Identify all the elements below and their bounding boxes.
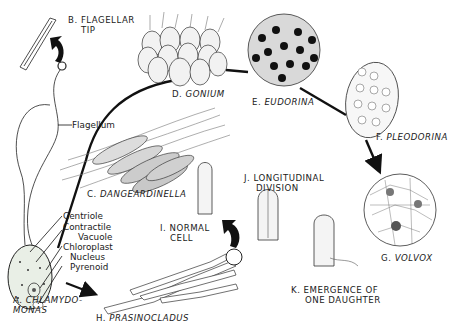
algae-evolution-figure: B. FLAGELLAR TIP C. DANGEARDINELLA D. GO… xyxy=(0,0,456,327)
gonium-drawing xyxy=(138,12,227,86)
arrow-d-to-e xyxy=(226,70,248,72)
arrow-flagellar-tip xyxy=(50,36,66,70)
part-label-contractile: Contractile xyxy=(63,222,111,232)
volvox-drawing xyxy=(364,174,436,246)
flagellar-tip-drawing xyxy=(20,18,56,70)
emergence-daughter-drawing xyxy=(314,215,358,266)
label-flagellar-tip: B. FLAGELLAR TIP xyxy=(68,15,135,35)
arrow-a-to-h xyxy=(66,283,92,293)
eudorina-drawing xyxy=(248,14,320,86)
arrow-f-to-g xyxy=(366,140,378,168)
label-prasinocladus: H. PRASINOCLADUS xyxy=(96,313,189,323)
part-label-vacuole: Vacuole xyxy=(78,232,112,242)
label-chlamydomonas: A. CHLAMYDO- MONAS xyxy=(13,295,82,315)
label-pleodorina: F. PLEODORINA xyxy=(376,132,448,142)
part-label-chloroplast: Chloroplast xyxy=(63,242,113,252)
pleodorina-drawing xyxy=(340,58,404,142)
magnify-ring xyxy=(226,249,242,265)
illustration xyxy=(0,0,456,327)
label-longitudinal-division: J. LONGITUDINAL DIVISION xyxy=(244,173,324,193)
label-normal-cell: I. NORMAL CELL xyxy=(160,223,210,243)
label-volvox: G. VOLVOX xyxy=(381,253,433,263)
part-label-flagellum: Flagellum xyxy=(72,120,115,130)
part-label-centriole: Centriole xyxy=(63,211,103,221)
arrow-h-to-i xyxy=(222,220,239,248)
prasinocladus-drawing xyxy=(104,254,238,314)
label-gonium: D. GONIUM xyxy=(172,89,225,99)
normal-cell-drawing xyxy=(198,163,212,215)
label-dangeardinella: C. DANGEARDINELLA xyxy=(87,189,186,199)
longitudinal-division-drawing xyxy=(258,190,278,241)
part-label-pyrenoid: Pyrenoid xyxy=(70,262,108,272)
label-emergence-daughter: K. EMERGENCE OF ONE DAUGHTER xyxy=(291,285,381,305)
label-eudorina: E. EUDORINA xyxy=(252,97,314,107)
flagellum-lines xyxy=(16,70,60,250)
part-label-nucleus: Nucleus xyxy=(70,252,105,262)
